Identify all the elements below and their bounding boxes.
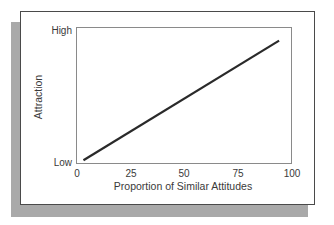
- x-axis-title: Proportion of Similar Attitudes: [114, 180, 252, 192]
- y-axis-title: Attraction: [32, 75, 44, 120]
- plot-area: [77, 28, 292, 164]
- line-chart: High Low 0 25 50 75 100 Proportion of Si…: [0, 0, 334, 225]
- x-tick-75: 75: [232, 168, 244, 179]
- y-tick-low: Low: [54, 157, 73, 168]
- y-tick-high: High: [51, 25, 72, 36]
- x-tick-25: 25: [125, 168, 137, 179]
- x-tick-100: 100: [284, 168, 301, 179]
- x-tick-0: 0: [74, 168, 80, 179]
- x-tick-50: 50: [178, 168, 190, 179]
